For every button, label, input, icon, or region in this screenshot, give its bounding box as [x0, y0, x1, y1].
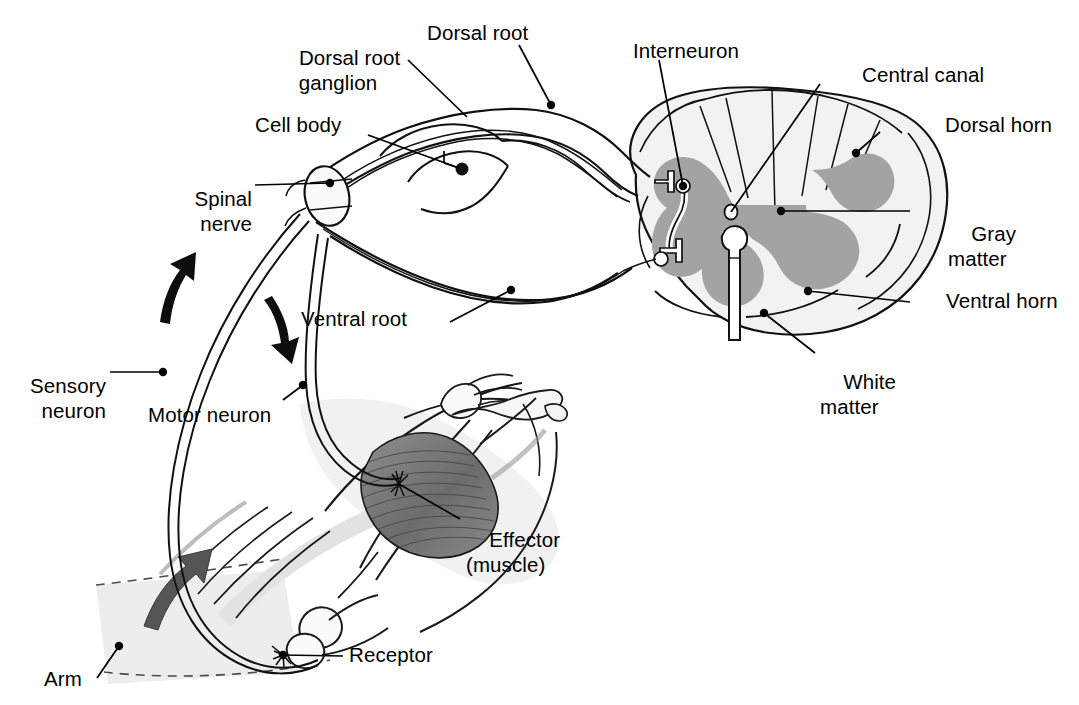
label-effector-muscle: Effector (muscle): [466, 502, 560, 602]
ventral-root: [316, 222, 656, 303]
label-arm: Arm: [44, 666, 82, 691]
hand-and-fingers: [441, 374, 567, 421]
label-dorsal-root-ganglion: Dorsal root ganglion: [262, 20, 414, 120]
label-sensory-neuron: Sensory neuron: [0, 348, 106, 448]
label-cell-body: Cell body: [255, 112, 341, 137]
motor-direction-arrow: [264, 296, 299, 364]
label-gray-matter: Gray matter: [948, 196, 1016, 296]
label-dorsal-horn: Dorsal horn: [945, 112, 1052, 137]
label-central-canal: Central canal: [862, 62, 984, 87]
sensory-direction-arrow: [160, 252, 196, 324]
label-spinal-nerve: Spinal nerve: [110, 161, 252, 261]
label-interneuron: Interneuron: [633, 38, 739, 63]
dorsal-root-and-ganglion: [311, 109, 650, 213]
label-dorsal-root: Dorsal root: [427, 20, 528, 45]
label-ventral-root: Ventral root: [301, 306, 407, 331]
label-motor-neuron: Motor neuron: [148, 402, 271, 427]
label-receptor: Receptor: [349, 642, 433, 667]
diagram-canvas: Dorsal root ganglion Dorsal root Interne…: [0, 0, 1079, 705]
label-ventral-horn: Ventral horn: [946, 288, 1058, 313]
label-white-matter: White matter: [820, 344, 896, 444]
